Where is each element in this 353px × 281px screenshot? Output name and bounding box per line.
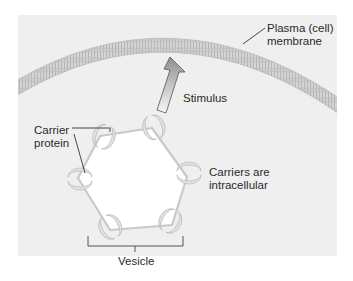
stimulus-label: Stimulus (183, 92, 227, 105)
stimulus-arrow-icon (157, 57, 185, 113)
carriers-intracellular-label: Carriers are intracellular (209, 166, 270, 191)
vesicle-label: Vesicle (118, 255, 154, 268)
membrane-label: Plasma (cell) membrane (267, 22, 333, 47)
carrier-protein-label: Carrier protein (34, 124, 69, 149)
membrane-leader-line (243, 28, 265, 44)
vesicle-bracket (88, 236, 183, 252)
